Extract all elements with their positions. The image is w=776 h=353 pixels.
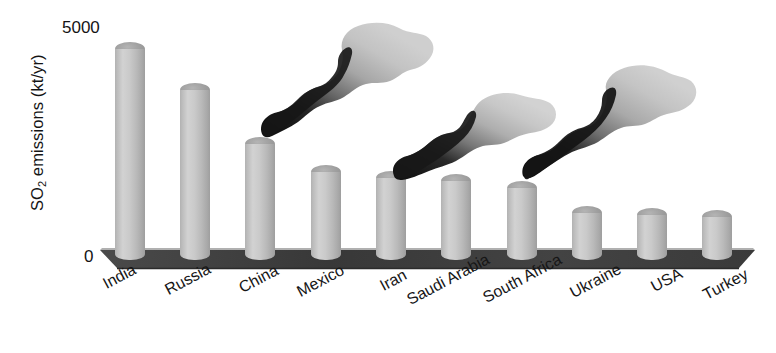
bar-body [180, 90, 210, 260]
smoke-plume-china [258, 18, 438, 138]
bar-saudi-arabia [441, 174, 471, 260]
bar-russia [180, 83, 210, 260]
y-axis-label-prefix: SO [28, 187, 46, 211]
y-axis-label-subscript: 2 [36, 181, 48, 187]
bar-body [572, 213, 602, 260]
y-axis-label: SO2 emissions (kt/yr) [28, 3, 47, 263]
bar-body [311, 172, 341, 260]
bar-body [115, 49, 145, 260]
bar-turkey [702, 210, 732, 260]
y-tick-label-0: 0 [84, 247, 93, 267]
y-axis-label-suffix: emissions (kt/yr) [28, 54, 46, 180]
smoke-plume-south-africa [520, 62, 700, 182]
bar-body [441, 181, 471, 260]
bar-india [115, 42, 145, 260]
bar-body [637, 215, 667, 260]
bar-body [245, 144, 275, 260]
bar-mexico [311, 165, 341, 260]
bar-body [507, 188, 537, 260]
bar-body [702, 217, 732, 260]
y-tick-label-5000: 5000 [62, 18, 100, 38]
bar-china [245, 137, 275, 260]
bar-usa [637, 208, 667, 260]
smoke-plume-iran [390, 90, 560, 180]
bar-body [376, 178, 406, 260]
bar-iran [376, 171, 406, 260]
bar-south-africa [507, 181, 537, 260]
bar-ukraine [572, 206, 602, 260]
so2-emissions-bar-chart: SO2 emissions (kt/yr) 5000 0 [0, 0, 776, 353]
